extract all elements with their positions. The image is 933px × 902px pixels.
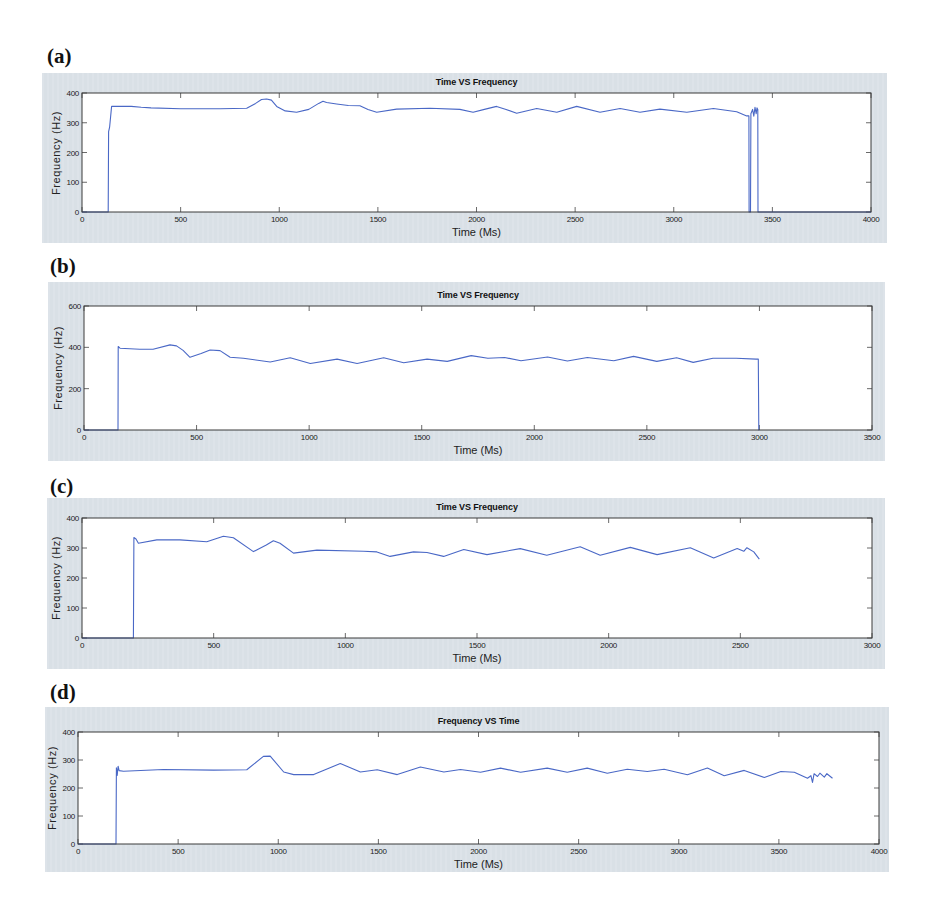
x-tick-label: 1000 — [301, 433, 318, 442]
x-tick-label: 500 — [207, 641, 219, 650]
panel-label-c: (c) — [50, 474, 73, 498]
x-tick-label: 2500 — [570, 847, 587, 856]
y-axis-label: Frequency (Hz) — [46, 746, 58, 830]
x-tick-label: 3500 — [771, 847, 788, 856]
plot-frame — [82, 518, 872, 638]
x-tick-label: 2000 — [468, 215, 485, 224]
x-tick-label: 2000 — [600, 641, 617, 650]
x-tick-label: 1500 — [469, 641, 486, 650]
x-tick-label: 1000 — [271, 215, 288, 224]
y-tick-label: 200 — [69, 384, 81, 393]
line-plot — [82, 93, 871, 212]
panel-label-a: (a) — [47, 44, 72, 68]
chart-title: Time VS Frequency — [82, 77, 871, 87]
x-tick-label: 3500 — [764, 215, 781, 224]
x-tick-label: 3000 — [864, 641, 881, 650]
x-tick-label: 3000 — [665, 215, 682, 224]
y-tick-label: 100 — [67, 604, 79, 613]
x-tick-label: 2500 — [639, 433, 656, 442]
y-tick-label: 200 — [67, 574, 79, 583]
y-tick-label: 100 — [63, 812, 75, 821]
x-tick-label: 2000 — [526, 433, 543, 442]
x-tick-label: 2500 — [732, 641, 749, 650]
chart-panel-d: Frequency VS Time Frequency (Hz) Time (M… — [45, 707, 889, 872]
chart-title: Time VS Frequency — [82, 502, 872, 512]
x-tick-label: 2000 — [470, 847, 487, 856]
frequency-line — [84, 345, 759, 430]
x-axis-label: Time (Ms) — [78, 858, 879, 870]
frequency-line — [82, 99, 871, 212]
y-tick-label: 300 — [67, 544, 79, 553]
y-tick-label: 400 — [67, 514, 79, 523]
x-tick-label: 500 — [190, 433, 202, 442]
y-tick-label: 0 — [71, 840, 75, 849]
x-tick-label: 1000 — [270, 847, 287, 856]
panel-label-d: (d) — [50, 680, 76, 704]
panel-label-b: (b) — [50, 254, 76, 278]
x-tick-label: 0 — [80, 641, 84, 650]
chart-title: Time VS Frequency — [84, 290, 872, 300]
x-tick-label: 3500 — [864, 433, 881, 442]
y-axis-label: Frequency (Hz) — [50, 110, 62, 194]
plot-frame — [84, 306, 872, 430]
x-tick-label: 1500 — [370, 215, 387, 224]
line-plot — [84, 306, 872, 430]
plot-frame — [78, 732, 879, 844]
y-tick-label: 200 — [67, 148, 79, 157]
plot-area-a: Time VS Frequency Frequency (Hz) Time (M… — [82, 93, 871, 212]
x-tick-label: 0 — [76, 847, 80, 856]
chart-title: Frequency VS Time — [78, 716, 879, 726]
frequency-line — [78, 756, 833, 844]
x-tick-label: 1500 — [413, 433, 430, 442]
y-tick-label: 300 — [67, 118, 79, 127]
plot-area-c: Time VS Frequency Frequency (Hz) Time (M… — [82, 518, 872, 638]
y-tick-label: 100 — [67, 178, 79, 187]
line-plot — [82, 518, 872, 638]
x-tick-label: 500 — [174, 215, 186, 224]
x-tick-label: 0 — [82, 433, 86, 442]
plot-area-d: Frequency VS Time Frequency (Hz) Time (M… — [78, 732, 879, 844]
chart-panel-a: Time VS Frequency Frequency (Hz) Time (M… — [42, 73, 887, 243]
x-tick-label: 4000 — [871, 847, 888, 856]
chart-panel-c: Time VS Frequency Frequency (Hz) Time (M… — [47, 498, 885, 669]
x-axis-label: Time (Ms) — [84, 444, 872, 456]
x-tick-label: 2500 — [567, 215, 584, 224]
y-axis-label: Frequency (Hz) — [52, 326, 64, 410]
x-tick-label: 0 — [80, 215, 84, 224]
x-tick-label: 4000 — [863, 215, 880, 224]
y-tick-label: 0 — [75, 208, 79, 217]
x-tick-label: 1000 — [337, 641, 354, 650]
y-tick-label: 0 — [77, 426, 81, 435]
y-tick-label: 400 — [67, 89, 79, 98]
y-tick-label: 400 — [63, 728, 75, 737]
y-tick-label: 200 — [63, 784, 75, 793]
y-tick-label: 600 — [69, 302, 81, 311]
y-axis-label: Frequency (Hz) — [50, 536, 62, 620]
chart-panel-b: Time VS Frequency Frequency (Hz) Time (M… — [48, 282, 885, 461]
plot-area-b: Time VS Frequency Frequency (Hz) Time (M… — [84, 306, 872, 430]
frequency-line — [82, 536, 759, 638]
x-tick-label: 3000 — [751, 433, 768, 442]
y-tick-label: 300 — [63, 756, 75, 765]
x-axis-label: Time (Ms) — [82, 652, 872, 664]
x-tick-label: 3000 — [670, 847, 687, 856]
y-tick-label: 0 — [75, 634, 79, 643]
x-tick-label: 1500 — [370, 847, 387, 856]
y-tick-label: 400 — [69, 343, 81, 352]
x-tick-label: 500 — [172, 847, 184, 856]
line-plot — [78, 732, 879, 844]
x-axis-label: Time (Ms) — [82, 226, 871, 238]
